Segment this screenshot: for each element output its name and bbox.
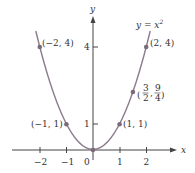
x-axis-label: x [181, 145, 186, 155]
svg-text:2: 2 [143, 93, 149, 103]
x-tick-label: 0 [84, 157, 90, 167]
curve-label: y = x2 [135, 18, 163, 30]
svg-text:): ) [161, 90, 165, 100]
fraction-point-label: ( 3 2 , 9 4 ) [137, 83, 165, 103]
point-3half-9quarter [131, 90, 136, 95]
point-label: (1, 1) [123, 119, 147, 129]
y-axis-arrow-icon [91, 16, 96, 23]
x-tick-label: 2 [144, 157, 150, 167]
y-ticks [93, 47, 98, 124]
svg-text:,: , [150, 88, 153, 98]
svg-text:(: ( [137, 90, 141, 100]
point-minus1-1 [64, 122, 69, 127]
point-2-4 [144, 45, 149, 50]
point-label: (−2, 4) [42, 38, 74, 48]
point-1-1 [117, 122, 122, 127]
parabola-chart: x y −2 −1 0 1 2 1 4 (−2, 4) (2, 4) (−1, … [0, 0, 195, 173]
x-axis-arrow-icon [170, 148, 177, 153]
point-origin [91, 148, 96, 153]
x-tick-label: −2 [34, 157, 47, 167]
svg-text:3: 3 [143, 83, 149, 93]
y-tick-label: 1 [84, 119, 90, 129]
y-tick-label: 4 [84, 42, 90, 52]
x-tick-label: 1 [117, 157, 123, 167]
point-label: (2, 4) [150, 38, 174, 48]
x-tick-label: −1 [61, 157, 74, 167]
y-axis-label: y [89, 4, 96, 14]
point-label: (−1, 1) [31, 119, 63, 129]
